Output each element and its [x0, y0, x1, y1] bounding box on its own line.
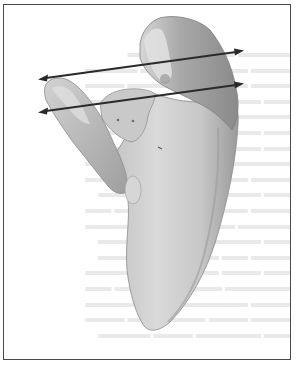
arrowhead-left-icon	[38, 108, 48, 115]
arrowhead-left-icon	[38, 75, 48, 82]
foramen-dot	[117, 119, 120, 122]
infraglenoid-tubercle	[125, 176, 141, 204]
arrowhead-right-icon	[234, 82, 244, 89]
arrowhead-right-icon	[234, 49, 244, 56]
scapula-illustration	[0, 0, 297, 366]
acromion-tubercle	[160, 74, 170, 84]
foramen-dot	[132, 120, 135, 123]
